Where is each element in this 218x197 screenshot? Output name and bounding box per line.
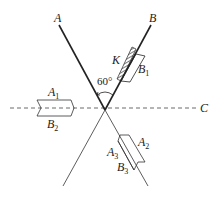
label-b1: B1 [138, 62, 149, 78]
line-b-extension [63, 110, 105, 186]
label-k: K [111, 53, 121, 67]
label-a3: A3 [106, 145, 118, 161]
label-b: B [149, 11, 157, 25]
label-a1: A1 [47, 85, 59, 101]
angle-label: 60° [97, 75, 112, 87]
label-b3: B3 [117, 160, 128, 176]
label-c: C [200, 101, 209, 115]
angle-arc [97, 92, 113, 95]
line-a [59, 25, 105, 110]
label-a2: A2 [137, 135, 149, 151]
label-b2: B2 [47, 117, 58, 133]
diagram-canvas: 60° K B1 A1 B2 A2 A3 B3 A B C [0, 0, 218, 197]
label-a: A [53, 11, 62, 25]
